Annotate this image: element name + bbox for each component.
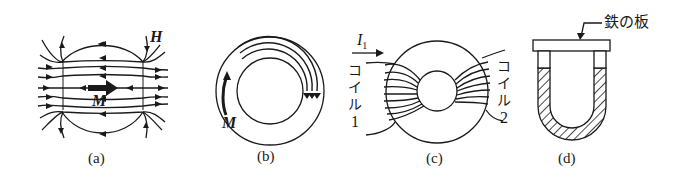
panel-label-c: (c) [426,150,443,167]
magnetization-symbol-M-b: M [222,114,236,132]
coil2-char: ル [496,92,512,109]
coil1-label: コ イ ル 1 [347,62,363,130]
figure: H M M I1 コ イ ル 1 コ イ ル 2 鉄の板 (a) (b) (c)… [0,0,697,185]
current-subscript: 1 [362,40,367,51]
coil1-char: コ [347,62,363,79]
iron-plate-callout: 鉄の板 [604,14,649,31]
current-symbol-I1: I1 [357,31,367,51]
panel-label-b: (b) [257,148,275,165]
coil2-number: 2 [496,109,512,126]
field-symbol-H: H [150,28,162,46]
panel-c-arrowheads [376,49,384,57]
coil1-char: イ [347,79,363,96]
coil1-char: ル [347,96,363,113]
panel-label-d: (d) [558,150,576,167]
panel-c-drawing [352,41,505,143]
coil1-number: 1 [347,113,363,130]
panel-d-drawing [533,23,610,140]
coil2-char: コ [496,58,512,75]
magnetization-symbol-M-a: M [92,92,106,110]
panel-d-arrowhead [577,33,585,40]
coil2-char: イ [496,75,512,92]
coil2-label: コ イ ル 2 [496,58,512,126]
panel-label-a: (a) [88,150,105,167]
